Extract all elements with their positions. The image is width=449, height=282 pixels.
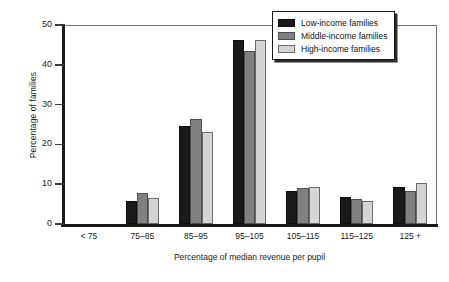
bar bbox=[190, 119, 201, 224]
bar bbox=[286, 191, 297, 224]
x-axis-line bbox=[61, 224, 438, 227]
bar bbox=[126, 201, 137, 224]
y-axis-tick-label: 30 bbox=[20, 99, 52, 109]
y-axis-tick-label: 0 bbox=[20, 218, 52, 228]
bar bbox=[148, 198, 159, 224]
bar bbox=[351, 199, 362, 224]
bar bbox=[362, 201, 373, 224]
y-axis-tick-label: 20 bbox=[20, 138, 52, 148]
y-axis-tick bbox=[55, 64, 64, 66]
bar bbox=[244, 51, 255, 224]
bar bbox=[416, 183, 427, 224]
legend-swatch-icon bbox=[278, 32, 295, 40]
y-axis-tick-label: 10 bbox=[20, 178, 52, 188]
y-axis-tick-label: 50 bbox=[20, 19, 52, 29]
legend-swatch-icon bbox=[278, 19, 295, 27]
legend-swatch-icon bbox=[278, 45, 295, 53]
x-axis-tick-label: 95–105 bbox=[220, 231, 280, 241]
bar bbox=[233, 40, 244, 224]
bar bbox=[405, 191, 416, 224]
x-axis-tick-label: 85–95 bbox=[166, 231, 226, 241]
legend-label: Middle-income families bbox=[301, 31, 387, 41]
y-axis-line bbox=[62, 24, 65, 225]
chart-figure: Percentage of families 01020304050 < 757… bbox=[0, 0, 449, 282]
bar bbox=[255, 40, 266, 224]
legend-label: Low-income families bbox=[301, 18, 378, 28]
x-axis-title: Percentage of median revenue per pupil bbox=[62, 252, 437, 262]
bar bbox=[309, 187, 320, 224]
x-axis-tick-label: 125 + bbox=[380, 231, 440, 241]
y-axis-tick bbox=[55, 183, 64, 185]
bar bbox=[202, 132, 213, 224]
y-axis-tick bbox=[55, 223, 64, 225]
legend-item: Middle-income families bbox=[278, 29, 387, 42]
chart-legend: Low-income familiesMiddle-income familie… bbox=[272, 11, 395, 60]
x-axis-tick-label: < 75 bbox=[59, 231, 119, 241]
y-axis-tick-label: 40 bbox=[20, 59, 52, 69]
x-axis-tick-label: 115–125 bbox=[327, 231, 387, 241]
x-axis-tick-label: 105–115 bbox=[273, 231, 333, 241]
bar bbox=[137, 193, 148, 224]
bar bbox=[340, 197, 351, 224]
y-axis-tick bbox=[55, 104, 64, 106]
y-axis-tick bbox=[55, 144, 64, 146]
bar bbox=[179, 126, 190, 224]
legend-item: Low-income families bbox=[278, 16, 387, 29]
legend-label: High-income families bbox=[301, 44, 380, 54]
bar bbox=[393, 187, 404, 224]
y-axis-tick bbox=[55, 24, 64, 26]
legend-item: High-income families bbox=[278, 42, 387, 55]
x-axis-tick-label: 75–85 bbox=[112, 231, 172, 241]
bar bbox=[297, 188, 308, 224]
